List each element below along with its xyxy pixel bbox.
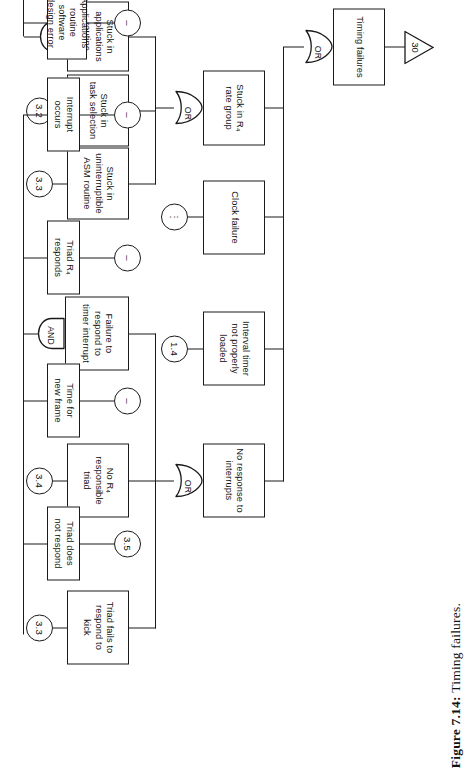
node-top-event: Timing failures — [333, 8, 385, 85]
event-circle-stuck-asm-routine-label: 3.3 — [34, 177, 45, 191]
wire-nr-bus-to-no-r4-triad — [129, 480, 156, 481]
node-triad-r4-responds-label: Triad R₄ responds — [52, 237, 75, 276]
node-stuck-in-uninterruptible-asm-routine-label: Stuck in uninterruptible ASM routine — [81, 153, 115, 213]
gate-or-top: OR — [303, 26, 333, 66]
wire-design-error-to-event — [87, 22, 114, 23]
wire-bus-to-clock — [265, 216, 284, 217]
wire-time-new-frame-to-event — [80, 400, 114, 401]
wire-timer-and-children-bus — [23, 114, 24, 634]
node-no-r4-responsible-triad-label: No R₄ responsible triad — [81, 456, 115, 505]
wire-triad-kick-to-event — [53, 627, 67, 628]
node-clock-failure: Clock failure — [203, 180, 265, 254]
wire-bus-to-interval-load — [265, 348, 284, 349]
node-failure-to-respond-to-timer-interrupt-label: Failure to respond to timer interrupt — [80, 304, 114, 363]
event-circle-triad-fails-to-respond-to-kick: 3.3 — [26, 614, 53, 641]
wire-rate-group-gate-stem — [156, 107, 174, 108]
event-circle-applications-design-error: – — [114, 9, 141, 36]
node-no-response-to-interrupts: No response to interrupts — [203, 443, 265, 517]
wire-interval-load-to-event — [188, 348, 203, 349]
gate-and-timer-interrupt: AND — [37, 314, 65, 352]
wire-no-response-gate-stem — [156, 480, 174, 481]
event-circle-triad-does-not-respond-label: 3.5 — [122, 537, 133, 551]
node-stuck-in-task-selection-label: Stuck in task selection — [87, 81, 110, 139]
wire-rate-bus-to-stuck-asm — [129, 183, 156, 184]
wire-triangle-to-top — [385, 46, 405, 47]
event-circle-no-r4-responsible-triad: 3.4 — [26, 467, 53, 494]
event-circle-interval-timer-loaded-label: 1.4 — [169, 342, 180, 356]
node-interval-timer-not-properly-loaded: Interval timer not properly loaded — [203, 311, 265, 385]
node-time-for-new-frame-label: Time for new frame — [52, 378, 75, 422]
node-failure-to-respond-to-timer-interrupt: Failure to respond to timer interrupt — [65, 296, 129, 370]
node-no-response-to-interrupts-label: No response to interrupts — [223, 448, 246, 512]
event-circle-clock-failure-label: ⋮ — [169, 211, 180, 221]
event-circle-interval-timer-loaded: 1.4 — [161, 335, 188, 362]
event-circle-time-for-new-frame-label: – — [122, 398, 133, 404]
wire-no-r4-triad-to-event — [53, 480, 67, 481]
wire-and-bus-to-triad-no-respond — [24, 543, 47, 544]
wire-asm-routine-to-event — [53, 183, 67, 184]
wire-applications-children-bus — [23, 0, 24, 36]
wire-top-gate-stem — [284, 46, 304, 47]
wire-nr-bus-to-fail-timer — [129, 333, 156, 334]
transfer-in-label: 30 — [410, 42, 421, 52]
event-circle-applications-design-error-label: – — [122, 20, 133, 26]
event-circle-triad-fails-to-respond-to-kick-label: 3.3 — [34, 621, 45, 635]
wire-level1-bus — [283, 46, 284, 481]
wire-triad-no-respond-to-event — [80, 543, 114, 544]
event-circle-triad-r4-responds: – — [114, 244, 141, 271]
wire-nr-bus-to-triad-kick — [129, 627, 156, 628]
node-triad-fails-to-respond-to-kick-label: Triad fails to respond to kick — [81, 601, 115, 653]
node-interval-timer-not-properly-loaded-label: Interval timer not properly loaded — [217, 320, 251, 375]
event-circle-stuck-asm-routine: 3.3 — [26, 170, 53, 197]
node-applications-routine-software-design-error: Applications routine software design err… — [47, 0, 87, 59]
node-interrupt-occurs-label: Interrupt occurs — [52, 96, 75, 132]
node-interrupt-occurs: Interrupt occurs — [47, 77, 80, 151]
wire-bus-to-stuck-rate — [265, 107, 284, 108]
wire-and-bus-to-time-new-frame — [24, 400, 47, 401]
wire-rate-bus-to-stuck-apps — [129, 36, 156, 37]
gate-or-rate-group: OR — [173, 87, 203, 127]
node-triad-fails-to-respond-to-kick: Triad fails to respond to kick — [67, 590, 129, 664]
node-stuck-in-r4-rate-group-label: Stuck in R₄ rate group — [223, 84, 246, 131]
event-circle-triad-r4-responds-label: – — [122, 255, 133, 261]
node-stuck-in-r4-rate-group: Stuck in R₄ rate group — [203, 70, 265, 145]
figure-number: Figure 7.14: — [448, 696, 463, 768]
wire-interrupt-occurs-to-event — [80, 114, 114, 115]
event-circle-no-r4-responsible-triad-label: 3.4 — [34, 474, 45, 488]
wire-clock-to-event — [188, 216, 203, 217]
event-circle-interrupt-occurs-label: – — [122, 112, 133, 118]
wire-applications-gate-stem — [24, 36, 40, 37]
event-circle-clock-failure: ⋮ — [161, 203, 188, 230]
node-triad-r4-responds: Triad R₄ responds — [47, 220, 80, 294]
event-circle-time-for-new-frame: – — [114, 387, 141, 414]
wire-and-bus-to-triad-r4-responds — [24, 257, 47, 258]
wire-timer-and-gate-stem — [24, 333, 38, 334]
node-stuck-in-uninterruptible-asm-routine: Stuck in uninterruptible ASM routine — [67, 147, 129, 219]
event-circle-triad-does-not-respond: 3.5 — [114, 530, 141, 557]
wire-bus-to-no-response — [265, 480, 284, 481]
node-top-event-label: Timing failures — [353, 16, 364, 78]
figure-title: Timing failures. — [448, 603, 463, 693]
event-circle-interrupt-occurs: – — [114, 101, 141, 128]
transfer-in-triangle: 30 — [404, 30, 434, 64]
wire-triad-r4-responds-to-event — [80, 257, 114, 258]
node-applications-routine-software-design-error-label: Applications routine software design err… — [44, 0, 89, 55]
gate-or-no-response: OR — [173, 460, 203, 500]
node-clock-failure-label: Clock failure — [228, 191, 239, 243]
node-triad-does-not-respond-label: Triad does not respond — [52, 518, 75, 568]
node-time-for-new-frame: Time for new frame — [47, 363, 80, 437]
node-triad-does-not-respond: Triad does not respond — [47, 506, 80, 580]
figure-caption: Figure 7.14: Timing failures. — [448, 603, 464, 768]
wire-and-bus-to-interrupt-occurs — [24, 114, 47, 115]
